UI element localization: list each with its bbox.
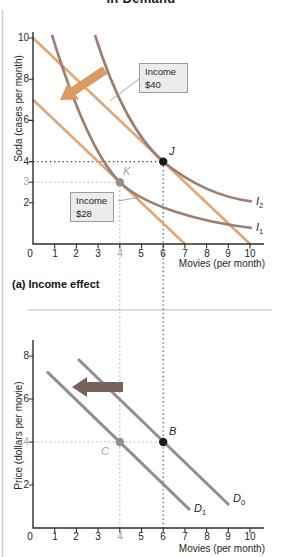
income-28-line2: $28 [76,208,113,221]
panel-b-y-tick-4: 4 [4,436,29,447]
d0-base: D [233,492,241,504]
income-28-line1: Income [76,195,113,208]
curve-d0-label: D0 [233,492,245,504]
panel-b-x-tick-9: 9 [218,531,238,542]
panel-b-x-tick-4: 4 [110,531,130,542]
point-J [159,157,167,165]
income-40-line2: $40 [145,79,187,92]
d0-sub: 0 [241,498,245,507]
panel-a-y-tick-4: 4 [4,156,29,167]
panel-a-caption: (a) Income effect [12,278,99,290]
point-B-label: B [169,425,176,437]
panel-b-x-tick-0: 0 [20,531,40,542]
point-C [116,438,124,446]
panel-b-x-axis-label: Movies (per month) [135,543,265,554]
i1-sub: 1 [259,227,263,236]
panel-a-x-axis-label: Movies (per month) [135,258,265,269]
panel-b-axes [33,340,264,528]
panel-b-x-tick-5: 5 [131,531,151,542]
panel-a-y-tick-8: 8 [4,73,29,84]
panel-a-x-tick-1: 1 [45,248,65,259]
income-28-callout: Income $28 [70,192,114,222]
panel-b-x-tick-6: 6 [153,531,173,542]
budget-line-income-28 [33,100,185,244]
point-K [116,178,124,186]
demand-curve-d0 [78,359,229,505]
d1-base: D [194,502,202,514]
panel-b-x-tick-2: 2 [66,531,86,542]
panel-a-x-tick-0: 0 [20,248,40,259]
panel-b-x-tick-7: 7 [175,531,195,542]
curve-d1-label: D1 [194,502,206,514]
panel-a-x-tick-3: 3 [88,248,108,259]
panel-a-x-tick-2: 2 [66,248,86,259]
income-40-callout: Income $40 [139,63,188,93]
point-C-label: C [101,445,109,457]
panel-a-y-tick-10: 10 [4,32,29,43]
panel-b-x-tick-8: 8 [197,531,217,542]
panel-b-y-tick-6: 6 [4,393,29,404]
figure-income-effect: { "title": "in Demand", "colors": { "bud… [0,0,282,557]
i2-sub: 2 [259,201,263,210]
curve-i1-label: I1 [256,221,263,233]
income-40-line1: Income [145,66,187,79]
panel-a-y-tick-3: 3 [4,176,29,187]
d1-sub: 1 [202,508,206,517]
panel-b-y-tick-8: 8 [4,350,29,361]
panel-b-x-tick-3: 3 [88,531,108,542]
panel-b-x-tick-1: 1 [45,531,65,542]
point-K-label: K [123,165,130,177]
panel-a-x-tick-4: 4 [110,248,130,259]
panel-a-y-tick-2: 2 [4,197,29,208]
curve-i2-label: I2 [256,195,263,207]
panel-a-y-tick-6: 6 [4,114,29,125]
point-B [159,438,167,446]
point-J-label: J [169,145,175,157]
panel-b-y-tick-2: 2 [4,479,29,490]
panel-b-x-tick-10: 10 [240,531,260,542]
